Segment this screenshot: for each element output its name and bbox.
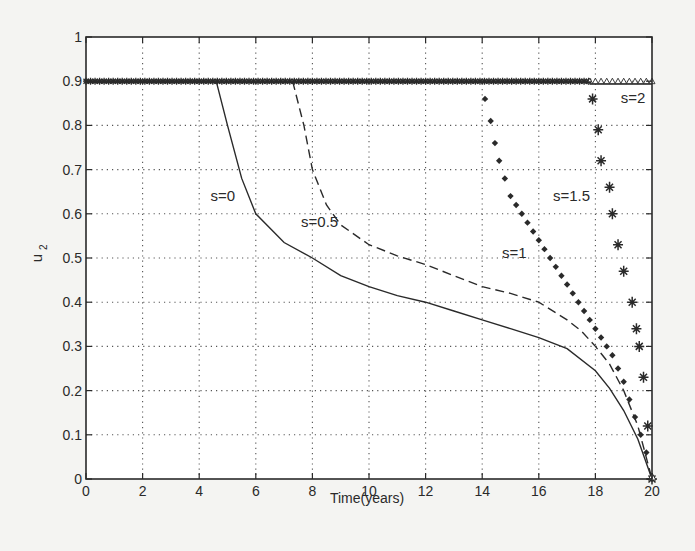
y-tick-label: 0 xyxy=(74,471,82,487)
annotation-s1: s=1 xyxy=(502,244,527,261)
y-tick-label: 0.3 xyxy=(63,338,83,354)
x-tick-label: 14 xyxy=(474,483,490,499)
x-tick-label: 8 xyxy=(309,483,317,499)
y-tick-label: 0.9 xyxy=(63,73,83,89)
x-tick-label: 18 xyxy=(588,483,604,499)
line-chart: 0246810121416182000.10.20.30.40.50.60.70… xyxy=(0,0,695,551)
x-tick-label: 0 xyxy=(82,483,90,499)
y-tick-label: 0.1 xyxy=(63,427,83,443)
x-tick-label: 12 xyxy=(418,483,434,499)
chart-container: 0246810121416182000.10.20.30.40.50.60.70… xyxy=(0,0,695,551)
y-tick-label: 0.2 xyxy=(63,383,83,399)
y-tick-label: 0.8 xyxy=(63,117,83,133)
x-tick-label: 16 xyxy=(531,483,547,499)
y-axis-label: u 2 xyxy=(28,244,49,262)
x-tick-label: 4 xyxy=(195,483,203,499)
y-tick-label: 0.7 xyxy=(63,162,83,178)
annotation-s05: s=0.5 xyxy=(301,213,338,230)
annotation-s15: s=1.5 xyxy=(553,187,590,204)
plot-area xyxy=(86,37,652,479)
y-axis-label-subscript: 2 xyxy=(38,244,49,250)
annotation-s2: s=2 xyxy=(621,89,646,106)
x-tick-label: 20 xyxy=(644,483,660,499)
x-tick-label: 2 xyxy=(139,483,147,499)
annotation-s0: s=0 xyxy=(211,187,236,204)
x-axis-label: Time(years) xyxy=(330,490,404,506)
y-tick-label: 0.6 xyxy=(63,206,83,222)
y-tick-label: 1 xyxy=(74,29,82,45)
y-tick-label: 0.5 xyxy=(63,250,83,266)
y-tick-label: 0.4 xyxy=(63,294,83,310)
x-tick-label: 6 xyxy=(252,483,260,499)
y-axis-label-base: u xyxy=(28,254,45,262)
